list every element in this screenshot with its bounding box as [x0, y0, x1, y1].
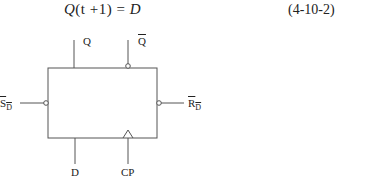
- label-rd-bar: RD: [188, 97, 202, 112]
- clock-edge-triangle-icon: [123, 130, 133, 138]
- label-cp: CP: [121, 166, 134, 178]
- q-bar-inversion-bubble: [126, 64, 131, 69]
- flip-flop-body: [48, 68, 157, 138]
- rd-inversion-bubble: [157, 101, 162, 106]
- sd-subscript: D: [6, 103, 12, 112]
- label-q-bar: Q: [138, 35, 146, 47]
- label-q: Q: [83, 35, 91, 47]
- label-d: D: [71, 166, 79, 178]
- rd-subscript: D: [195, 103, 201, 112]
- sd-inversion-bubble: [44, 101, 49, 106]
- label-sd-bar: SD: [0, 97, 13, 112]
- flip-flop-diagram: [0, 0, 366, 180]
